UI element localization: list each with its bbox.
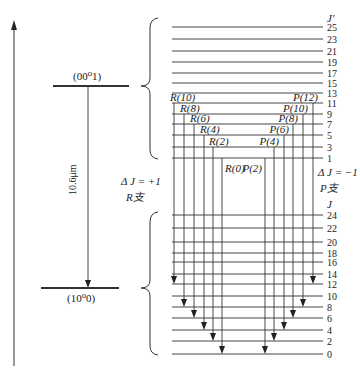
level-j-value: 8 — [327, 302, 332, 313]
arrowhead-icon — [300, 299, 306, 307]
p-branch-label: P支 — [319, 182, 340, 194]
upper-brace-icon — [141, 18, 158, 159]
r-branch-delta-label: Δ J = +1 — [120, 175, 161, 187]
upper-vibrational-level: (00⁰1) — [53, 70, 129, 86]
level-j-value: 7 — [327, 119, 332, 130]
rotational-level: 22 — [172, 223, 337, 234]
rotational-level: 10 — [172, 291, 337, 302]
arrowhead-icon — [310, 276, 316, 284]
wavelength-label: 10.6μm — [67, 164, 78, 195]
level-j-value: 11 — [327, 98, 337, 109]
rotational-level: 25 — [172, 22, 337, 33]
level-j-value: 16 — [327, 257, 337, 268]
rotational-level: 15 — [172, 78, 337, 89]
rotational-level: 20 — [172, 237, 337, 248]
laser-arrowhead-icon — [85, 280, 91, 288]
arrowhead-icon — [191, 310, 197, 318]
rotational-level: 18 — [172, 248, 337, 259]
arrowhead-icon — [262, 346, 268, 354]
rotational-level: 23 — [172, 34, 337, 45]
rotational-level: 3 — [172, 142, 332, 153]
level-j-value: 1 — [327, 153, 332, 164]
arrowhead-icon — [210, 333, 216, 341]
rotational-level: 5 — [172, 130, 332, 141]
level-j-value: 10 — [327, 291, 337, 302]
arrowhead-icon — [281, 322, 287, 330]
lower-brace-icon — [141, 212, 158, 355]
rotational-level: 16 — [172, 257, 337, 268]
arrowhead-icon — [181, 299, 187, 307]
rotational-level: 6 — [172, 313, 332, 324]
lower-j-header: J — [327, 198, 333, 210]
lower-state-label: (10⁰0) — [67, 292, 96, 305]
rotational-level: 19 — [172, 57, 337, 68]
transition-label: P(10) — [282, 102, 308, 115]
co2-laser-energy-level-diagram: (00⁰1) (10⁰0) 10.6μm Δ J = +1 R支 Δ J = −… — [0, 0, 360, 374]
transition-r0: R(0) — [219, 158, 245, 354]
level-j-value: 0 — [327, 349, 332, 360]
r-branch-transitions: R(10)R(8)R(6)R(4)R(2)R(0) — [169, 91, 245, 354]
arrowhead-icon — [201, 322, 207, 330]
energy-axis-arrow-icon — [11, 20, 17, 30]
rotational-level: 21 — [172, 46, 337, 57]
laser-transition-arrow: 10.6μm — [67, 86, 91, 288]
lower-vibrational-level: (10⁰0) — [41, 288, 119, 305]
r-branch-label: R支 — [125, 191, 146, 203]
transition-p6: P(6) — [268, 123, 289, 330]
rotational-level: 2 — [172, 336, 332, 347]
level-j-value: 21 — [327, 46, 337, 57]
level-j-value: 24 — [327, 210, 337, 221]
rotational-level: 17 — [172, 68, 337, 79]
arrowhead-icon — [290, 310, 296, 318]
transition-label: P(2) — [241, 162, 262, 175]
transition-p2: P(2) — [241, 158, 268, 354]
arrowhead-icon — [271, 333, 277, 341]
p-branch-transitions: P(2)P(4)P(6)P(8)P(10)P(12) — [241, 91, 318, 354]
transition-label: R(2) — [208, 135, 229, 148]
rotational-level: 24 — [172, 210, 337, 221]
arrowhead-icon — [219, 346, 225, 354]
level-j-value: 2 — [327, 336, 332, 347]
level-j-value: 6 — [327, 313, 332, 324]
transition-r4: R(4) — [199, 123, 220, 330]
lower-rotational-levels: 242220181614121086420 — [172, 210, 337, 360]
level-j-value: 4 — [327, 325, 332, 336]
level-j-value: 5 — [327, 130, 332, 141]
energy-axis — [11, 20, 17, 366]
upper-state-label: (00⁰1) — [73, 70, 102, 83]
level-j-value: 23 — [327, 34, 337, 45]
arrowhead-icon — [171, 276, 177, 284]
level-j-value: 3 — [327, 142, 332, 153]
level-j-value: 12 — [327, 279, 337, 290]
p-branch-delta-label: Δ J = −1 — [317, 166, 358, 178]
transition-label: P(12) — [292, 91, 318, 104]
transition-label: P(4) — [258, 135, 279, 148]
level-j-value: 25 — [327, 22, 337, 33]
rotational-level: 0 — [172, 349, 332, 360]
transition-label: P(6) — [268, 123, 289, 136]
level-j-value: 20 — [327, 237, 337, 248]
level-j-value: 19 — [327, 57, 337, 68]
transition-r8: R(8) — [179, 102, 200, 307]
rotational-level: 4 — [172, 325, 332, 336]
level-j-value: 22 — [327, 223, 337, 234]
